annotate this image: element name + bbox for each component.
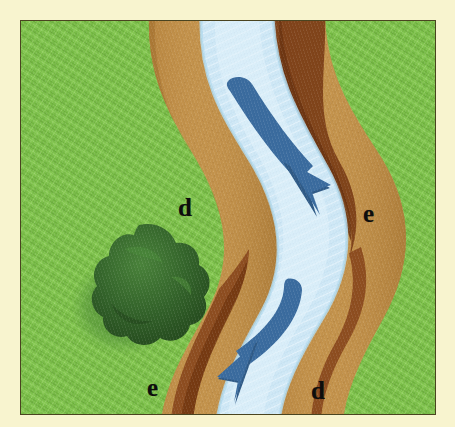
label-d-deposition-upper: d (178, 195, 192, 220)
label-e-erosion-upper: e (363, 201, 374, 226)
figure-root: d e e d (0, 0, 455, 427)
illustration-frame: d e e d (20, 20, 436, 415)
label-e-erosion-lower: e (147, 375, 158, 400)
label-d-deposition-lower: d (311, 378, 325, 403)
